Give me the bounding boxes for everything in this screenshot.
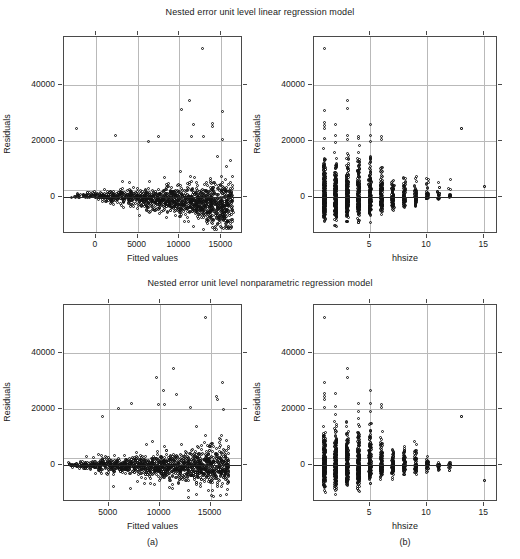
data-point: [402, 176, 405, 179]
data-point: [460, 415, 463, 418]
data-point: [347, 441, 350, 444]
data-point: [189, 175, 192, 178]
data-point: [165, 449, 168, 452]
gridline-vertical: [484, 305, 485, 500]
data-point: [124, 472, 127, 475]
data-point: [437, 181, 440, 184]
data-point: [200, 478, 203, 481]
data-point: [114, 134, 117, 137]
data-point: [206, 205, 209, 208]
data-point: [205, 190, 208, 193]
data-point: [323, 214, 326, 217]
data-point: [163, 403, 166, 406]
data-point: [180, 204, 183, 207]
data-point: [369, 178, 372, 181]
gridline-horizontal: [314, 409, 496, 410]
data-point: [231, 175, 234, 178]
data-point: [324, 485, 327, 488]
data-point: [220, 434, 223, 437]
data-point: [204, 453, 207, 456]
data-point: [225, 439, 228, 442]
data-point: [345, 220, 348, 223]
data-point: [204, 434, 207, 437]
y-axis-tick-right: [243, 408, 247, 409]
data-point: [204, 316, 207, 319]
data-point: [195, 181, 198, 184]
data-point: [128, 181, 131, 184]
data-point: [346, 99, 349, 102]
data-point: [229, 159, 232, 162]
data-point: [368, 475, 371, 478]
data-point: [138, 199, 141, 202]
data-point: [184, 479, 187, 482]
data-point: [370, 194, 373, 197]
data-point: [121, 180, 124, 183]
x-axis-tick-top: [483, 299, 484, 303]
gridline-vertical: [484, 37, 485, 232]
data-point: [196, 460, 199, 463]
data-point: [132, 186, 135, 189]
data-point: [197, 200, 200, 203]
y-axis-tick-label: 0: [255, 191, 305, 201]
x-axis-tick-label: 15000: [180, 507, 240, 517]
data-point: [358, 144, 361, 147]
plot-frame: [63, 36, 242, 233]
y-axis-tick-right: [498, 464, 502, 465]
data-point: [335, 467, 338, 470]
data-point: [208, 445, 211, 448]
data-point: [147, 206, 150, 209]
y-axis-tick: [308, 464, 312, 465]
x-axis-title: hhsize: [313, 253, 497, 263]
data-point: [358, 212, 361, 215]
data-point: [391, 201, 394, 204]
gridline-horizontal: [314, 141, 496, 142]
data-point: [381, 183, 384, 186]
data-point: [227, 183, 230, 186]
data-point: [220, 175, 223, 178]
data-point: [229, 227, 232, 230]
data-point: [221, 110, 224, 113]
data-point: [381, 454, 384, 457]
data-point: [381, 473, 384, 476]
data-point: [94, 192, 97, 195]
data-point: [404, 468, 407, 471]
data-point: [100, 472, 103, 475]
data-point: [415, 190, 418, 193]
zero-reference-line: [64, 465, 241, 466]
data-point: [211, 208, 214, 211]
data-point: [357, 417, 360, 420]
data-point: [148, 191, 151, 194]
y-axis-tick-right: [243, 196, 247, 197]
data-point: [437, 468, 440, 471]
data-point: [195, 493, 198, 496]
data-point: [323, 127, 326, 130]
data-point: [334, 413, 337, 416]
data-point: [107, 456, 110, 459]
data-point: [139, 459, 142, 462]
data-point: [232, 211, 235, 214]
data-point: [149, 482, 152, 485]
data-point: [135, 451, 138, 454]
x-axis-tick-top: [220, 31, 221, 35]
data-point: [200, 444, 203, 447]
y-axis-tick-label: 40000: [5, 347, 55, 357]
data-point: [226, 457, 229, 460]
x-axis-tick-top: [483, 31, 484, 35]
x-axis-tick-label: 15: [453, 507, 513, 517]
data-point: [324, 431, 327, 434]
data-point: [357, 402, 360, 405]
data-point: [155, 376, 158, 379]
data-point: [153, 460, 156, 463]
data-point: [143, 482, 146, 485]
data-point: [322, 457, 325, 460]
data-point: [347, 169, 350, 172]
data-point: [211, 125, 214, 128]
panel-title-bottom: Nested error unit level nonparametric re…: [0, 278, 520, 288]
data-point: [171, 483, 174, 486]
data-point: [127, 460, 130, 463]
data-point: [357, 208, 360, 211]
data-point: [322, 208, 325, 211]
data-point: [357, 462, 360, 465]
plot-frame: [313, 36, 497, 233]
data-point: [345, 179, 348, 182]
